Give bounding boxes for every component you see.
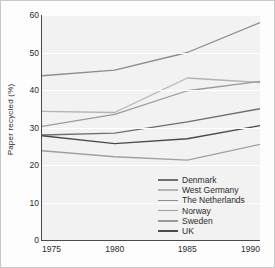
legend-label: UK bbox=[182, 226, 194, 236]
y-tick-label: 10 bbox=[30, 198, 39, 208]
legend-swatch-icon bbox=[158, 189, 178, 191]
gridline bbox=[42, 53, 260, 54]
legend-label: Denmark bbox=[182, 175, 216, 185]
gridline bbox=[42, 90, 260, 91]
legend-swatch-icon bbox=[158, 220, 178, 222]
legend-swatch-icon bbox=[158, 210, 178, 212]
legend-swatch-icon bbox=[158, 179, 178, 181]
x-tick-label: 1980 bbox=[105, 244, 124, 254]
y-axis-title: Paper recycled (%) bbox=[3, 1, 19, 237]
legend-swatch-icon bbox=[158, 230, 178, 232]
gridline bbox=[42, 165, 260, 166]
legend-item[interactable]: Norway bbox=[158, 206, 262, 216]
y-tick-label: 0 bbox=[34, 235, 39, 245]
series-line-west-germany bbox=[42, 78, 260, 113]
y-tick-label: 30 bbox=[30, 123, 39, 133]
gridline bbox=[42, 15, 260, 16]
legend-item[interactable]: The Netherlands bbox=[158, 195, 262, 205]
legend-item[interactable]: West Germany bbox=[158, 185, 262, 195]
y-tick-label: 60 bbox=[30, 10, 39, 20]
y-axis-title-text: Paper recycled (%) bbox=[7, 83, 16, 155]
chart-figure: Paper recycled (%) 0102030405060 1975198… bbox=[0, 0, 275, 268]
x-tick-label: 1990 bbox=[241, 244, 260, 254]
y-tick-label: 20 bbox=[30, 160, 39, 170]
legend-label: The Netherlands bbox=[182, 195, 245, 205]
gridline bbox=[42, 128, 260, 129]
x-tick-label: 1985 bbox=[178, 244, 197, 254]
series-line-the-netherlands bbox=[42, 23, 260, 76]
y-axis-tick-labels: 0102030405060 bbox=[19, 15, 39, 240]
legend-swatch-icon bbox=[158, 200, 178, 202]
y-tick-label: 50 bbox=[30, 48, 39, 58]
legend-label: West Germany bbox=[182, 185, 239, 195]
series-line-norway bbox=[42, 144, 260, 160]
x-axis-tick-labels: 1975198019851990 bbox=[42, 244, 260, 258]
series-line-sweden bbox=[42, 81, 260, 126]
legend-item[interactable]: Sweden bbox=[158, 216, 262, 226]
y-axis-line bbox=[41, 15, 42, 241]
legend-label: Norway bbox=[182, 206, 211, 216]
legend-item[interactable]: Denmark bbox=[158, 175, 262, 185]
x-axis-line bbox=[41, 240, 260, 241]
x-tick-label: 1975 bbox=[42, 244, 61, 254]
legend-item[interactable]: UK bbox=[158, 226, 262, 236]
legend-label: Sweden bbox=[182, 216, 213, 226]
y-tick-label: 40 bbox=[30, 85, 39, 95]
chart-legend: DenmarkWest GermanyThe NetherlandsNorway… bbox=[158, 175, 262, 236]
